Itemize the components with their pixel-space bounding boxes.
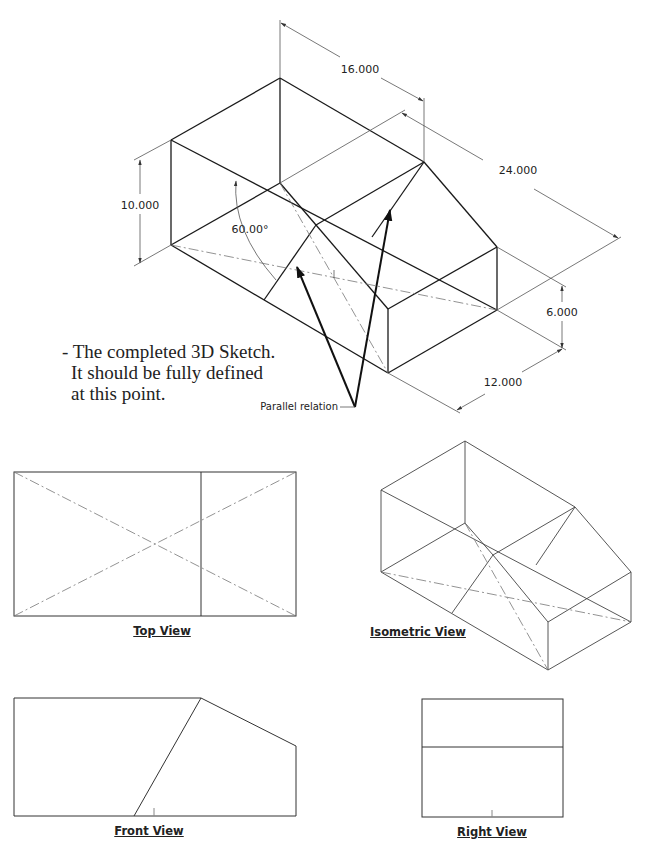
- edge-top-back-left: [171, 78, 280, 140]
- edge-ridge-slope-left: [264, 225, 316, 300]
- edge-front-bottom: [388, 310, 497, 373]
- dimension-16-label: 16.000: [341, 63, 380, 76]
- right-view: [422, 699, 563, 817]
- edge-peak-to-ridge: [316, 162, 424, 225]
- edge-peak-inner: [372, 162, 424, 237]
- dimension-angle-60[interactable]: 60.00°: [232, 181, 277, 280]
- callout-leader-right: [355, 210, 390, 407]
- note-line-2: It should be fully defined: [62, 362, 275, 383]
- note-line-1: - The completed 3D Sketch.: [62, 341, 275, 362]
- right-view-label: Right View: [457, 825, 527, 839]
- edge-inner-to-ridge: [280, 183, 316, 225]
- top-view: [14, 472, 296, 616]
- dimension-10-label: 10.000: [121, 199, 160, 212]
- dimension-24[interactable]: 24.000: [280, 110, 621, 310]
- edge-peak-slope: [424, 162, 497, 247]
- sketch-note: - The completed 3D Sketch. It should be …: [62, 341, 275, 404]
- front-view-outline: [14, 698, 296, 816]
- sketch-edges: [171, 78, 497, 373]
- isometric-view-label: Isometric View: [370, 625, 466, 639]
- dimension-angle-label: 60.00°: [232, 223, 269, 236]
- edge-left-top-long: [171, 140, 497, 310]
- edge-ridge-slope-front: [316, 225, 388, 309]
- edge-right-top: [388, 247, 497, 309]
- drawing-sheet: 16.000 24.000 10.000 6.000: [0, 0, 649, 865]
- parallel-relation-callout: Parallel relation: [260, 210, 390, 412]
- dimension-6[interactable]: 6.000: [497, 247, 578, 350]
- dimension-10[interactable]: 10.000: [121, 140, 171, 266]
- dimension-12-label: 12.000: [484, 376, 523, 389]
- dimension-6-label: 6.000: [546, 306, 578, 319]
- callout-leader-left: [297, 267, 355, 407]
- front-view-slope-line: [134, 698, 201, 816]
- edge-top-back-right: [280, 78, 424, 162]
- front-view-label: Front View: [114, 824, 183, 838]
- right-view-outline: [422, 699, 563, 817]
- note-line-3: at this point.: [62, 383, 275, 404]
- front-view: [14, 698, 296, 816]
- top-view-label: Top View: [133, 624, 191, 638]
- dimension-24-label: 24.000: [499, 164, 538, 177]
